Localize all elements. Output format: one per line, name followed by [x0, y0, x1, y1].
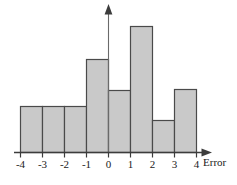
x-tick-label-7: 3	[164, 158, 186, 170]
x-tick-label-4: 0	[98, 158, 120, 170]
x-tick-label-2: -2	[54, 158, 76, 170]
bar-bin-3	[87, 60, 109, 153]
x-axis-ticks	[21, 153, 197, 158]
x-tick-label-1: -3	[32, 158, 54, 170]
bar-bin-6	[153, 121, 175, 153]
bar-bin-4	[109, 91, 131, 153]
y-axis-arrowhead	[105, 4, 113, 15]
bar-bin-2	[65, 107, 87, 153]
bar-bin-5	[131, 27, 153, 153]
histogram-chart: -4 -3 -2 -1 0 1 2 3 4 Error	[0, 0, 237, 185]
x-tick-label-0: -4	[10, 158, 32, 170]
bar-bin-0	[21, 107, 43, 153]
x-axis-title: Error	[203, 156, 226, 168]
bar-bin-7	[175, 90, 197, 153]
x-tick-label-5: 1	[120, 158, 142, 170]
x-tick-label-6: 2	[142, 158, 164, 170]
bar-bin-1	[43, 107, 65, 153]
x-tick-label-3: -1	[76, 158, 98, 170]
